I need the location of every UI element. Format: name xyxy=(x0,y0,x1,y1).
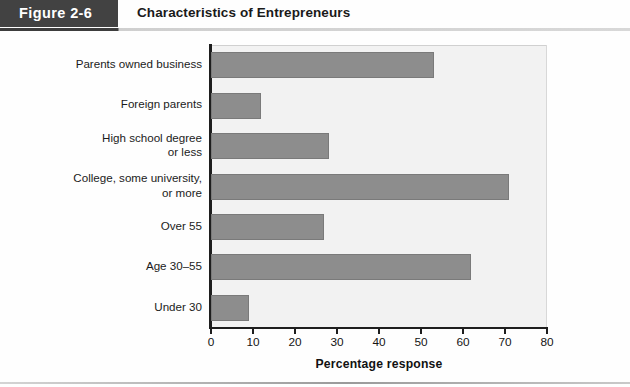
plot-right-border xyxy=(546,45,547,328)
x-axis-tick xyxy=(546,328,548,334)
x-axis-title: Percentage response xyxy=(211,357,547,371)
category-label: College, some university, or more xyxy=(73,171,202,200)
figure-container: Figure 2-6 Characteristics of Entreprene… xyxy=(0,0,630,387)
x-axis-tick xyxy=(462,328,464,334)
x-axis-tick xyxy=(252,328,254,334)
x-axis-tick xyxy=(504,328,506,334)
bar xyxy=(211,254,471,280)
category-label: Under 30 xyxy=(154,300,202,315)
x-axis-tick xyxy=(210,328,212,334)
x-axis-tick xyxy=(420,328,422,334)
x-axis-tick-label: 0 xyxy=(196,335,226,349)
bar xyxy=(211,93,261,119)
figure-number-banner: Figure 2-6 xyxy=(0,0,118,27)
category-label: Parents owned business xyxy=(76,57,202,72)
category-label: Foreign parents xyxy=(121,97,202,112)
x-axis-tick-label: 10 xyxy=(238,335,268,349)
plot-top-border xyxy=(211,45,547,46)
x-axis-tick xyxy=(294,328,296,334)
x-axis-tick-label: 80 xyxy=(532,335,562,349)
x-axis-tick-label: 50 xyxy=(406,335,436,349)
x-axis-tick-label: 60 xyxy=(448,335,478,349)
x-axis-tick-label: 30 xyxy=(322,335,352,349)
figure-header: Figure 2-6 Characteristics of Entreprene… xyxy=(0,0,630,31)
bar-chart: Parents owned businessForeign parentsHig… xyxy=(0,31,630,387)
x-axis-tick-label: 70 xyxy=(490,335,520,349)
bar xyxy=(211,133,329,159)
x-axis-tick xyxy=(378,328,380,334)
bar xyxy=(211,295,249,321)
figure-bottom-divider xyxy=(0,382,630,384)
bar xyxy=(211,52,434,78)
category-label: High school degree or less xyxy=(102,131,202,160)
bar xyxy=(211,214,324,240)
figure-number-label: Figure 2-6 xyxy=(19,5,92,21)
x-axis-tick-label: 20 xyxy=(280,335,310,349)
bar xyxy=(211,174,509,200)
figure-title: Characteristics of Entrepreneurs xyxy=(137,5,350,20)
x-axis-tick xyxy=(336,328,338,334)
category-label: Age 30–55 xyxy=(146,259,202,274)
x-axis-tick-label: 40 xyxy=(364,335,394,349)
category-label: Over 55 xyxy=(161,219,202,234)
